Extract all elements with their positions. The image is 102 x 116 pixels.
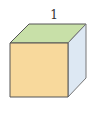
edge-length-label: 1: [50, 8, 58, 22]
cube-diagram: 1: [0, 0, 102, 116]
cube-figure: 1: [0, 0, 102, 116]
cube-front-face: [10, 43, 68, 97]
